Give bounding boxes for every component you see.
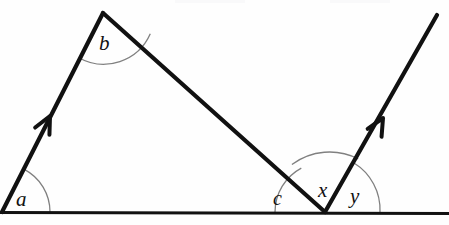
geometry-figure	[0, 0, 449, 225]
angle-label-c: c	[273, 188, 282, 208]
right-parallel-ray	[325, 15, 437, 212]
angle-label-b: b	[99, 33, 110, 54]
angle-x-arc	[292, 152, 358, 164]
angle-label-a: a	[16, 189, 27, 210]
baseline	[0, 213, 449, 214]
angle-a-arc	[24, 169, 50, 212]
diagram-canvas: a b c x y	[0, 0, 449, 225]
left-parallel-ray	[2, 13, 103, 212]
angle-label-y: y	[350, 186, 359, 207]
transversal-line	[103, 13, 325, 212]
angle-label-x: x	[318, 180, 327, 201]
